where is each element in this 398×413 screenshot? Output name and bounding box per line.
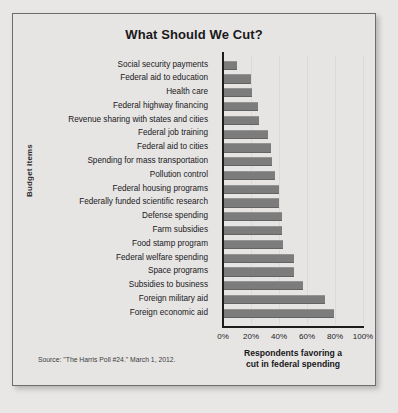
chart-title: What Should We Cut? — [13, 27, 375, 42]
x-axis-title: Respondents favoring a cut in federal sp… — [203, 348, 383, 370]
bar — [223, 185, 279, 194]
category-label: Social security payments — [117, 60, 208, 69]
x-tick-label: 20% — [243, 332, 259, 341]
bar — [223, 88, 252, 97]
bar — [223, 281, 303, 290]
bar — [223, 240, 283, 249]
category-label: Federal welfare spending — [116, 253, 208, 262]
category-label: Health care — [166, 87, 208, 96]
category-label: Food stamp program — [132, 239, 208, 248]
category-label: Federal aid to education — [120, 73, 208, 82]
category-label: Subsidies to business — [129, 280, 208, 289]
bar — [223, 143, 271, 152]
category-label: Revenue sharing with states and cities — [68, 115, 208, 124]
category-label: Defense spending — [142, 211, 208, 220]
x-tick-label: 80% — [327, 332, 343, 341]
category-labels: Social security paymentsFederal aid to e… — [41, 56, 211, 324]
bar — [223, 295, 325, 304]
x-axis-line — [222, 326, 364, 328]
plot-area: Social security paymentsFederal aid to e… — [41, 56, 363, 330]
bar — [223, 61, 237, 70]
bar — [223, 198, 279, 207]
bar — [223, 116, 259, 125]
category-label: Federal job training — [138, 128, 208, 137]
category-label: Federally funded scientific research — [79, 197, 208, 206]
category-label: Foreign military aid — [139, 294, 208, 303]
x-tick-label: 40% — [271, 332, 287, 341]
bar — [223, 267, 294, 276]
x-tick-label: 60% — [299, 332, 315, 341]
source-note: Source: "The Harris Poll #24." March 1, … — [38, 356, 175, 363]
bar — [223, 212, 282, 221]
gridline — [335, 56, 336, 324]
bar — [223, 130, 268, 139]
x-tick-label: 100% — [353, 332, 373, 341]
x-tick-label: 0% — [217, 332, 229, 341]
category-label: Space programs — [148, 266, 208, 275]
category-label: Spending for mass transportation — [87, 156, 208, 165]
bar — [223, 226, 282, 235]
x-axis-title-line2: cut in federal spending — [203, 359, 383, 370]
bar — [223, 74, 251, 83]
category-label: Federal aid to cities — [137, 142, 208, 151]
category-label: Farm subsidies — [152, 225, 208, 234]
x-axis-title-line1: Respondents favoring a — [203, 348, 383, 359]
x-axis-tick-labels: 0%20%40%60%80%100% — [41, 332, 363, 346]
bar — [223, 309, 334, 318]
y-axis-line — [222, 52, 224, 328]
bar — [223, 171, 275, 180]
category-label: Pollution control — [150, 170, 208, 179]
bar — [223, 254, 294, 263]
category-label: Federal highway financing — [113, 101, 208, 110]
bars-area — [223, 56, 363, 324]
gridline — [307, 56, 308, 324]
figure-page: What Should We Cut? Budget items Social … — [0, 0, 398, 413]
category-label: Federal housing programs — [112, 184, 208, 193]
bar — [223, 157, 272, 166]
bar — [223, 102, 258, 111]
chart-frame: What Should We Cut? Budget items Social … — [12, 13, 376, 386]
category-label: Foreign economic aid — [130, 308, 208, 317]
gridline — [363, 56, 364, 324]
y-axis-title: Budget items — [25, 144, 39, 197]
